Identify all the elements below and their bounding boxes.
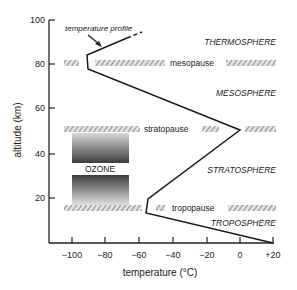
x-tick-minus100: −100 [62, 250, 82, 260]
atmosphere-temperature-chart: 100 80 60 40 20 −100 −80 −60 −40 −20 0 +… [0, 0, 297, 290]
x-tick-plus20: +20 [265, 250, 280, 260]
x-tick-minus20: −20 [199, 250, 214, 260]
tropopause-band [64, 205, 276, 211]
stratopause-label: stratopause [144, 124, 189, 134]
troposphere-label: TROPOSPHERE [211, 218, 277, 228]
mesosphere-label: MESOSPHERE [216, 88, 276, 98]
x-axis-title: temperature (°C) [123, 267, 198, 278]
y-tick-80: 80 [35, 59, 45, 69]
y-tick-20: 20 [35, 193, 45, 203]
tropopause-label: tropopause [172, 203, 215, 213]
mesopause-label: mesopause [170, 58, 214, 68]
thermosphere-label: THERMOSPHERE [204, 37, 276, 47]
x-tick-0: 0 [237, 250, 242, 260]
ozone-region-upper [72, 133, 129, 163]
x-axis [49, 237, 274, 243]
y-tick-60: 60 [35, 103, 45, 113]
ozone-region-lower [72, 175, 129, 205]
x-tick-minus60: −60 [131, 250, 146, 260]
ozone-label: OZONE [85, 164, 116, 174]
x-tick-minus40: −40 [165, 250, 180, 260]
stratosphere-label: STRATOSPHERE [207, 165, 276, 175]
y-tick-100: 100 [30, 15, 45, 25]
y-axis-title: altitude (km) [12, 102, 23, 157]
temperature-profile-annotation: temperature profile [65, 24, 133, 33]
x-tick-minus80: −80 [97, 250, 112, 260]
y-axis [49, 20, 55, 243]
y-tick-40: 40 [35, 149, 45, 159]
